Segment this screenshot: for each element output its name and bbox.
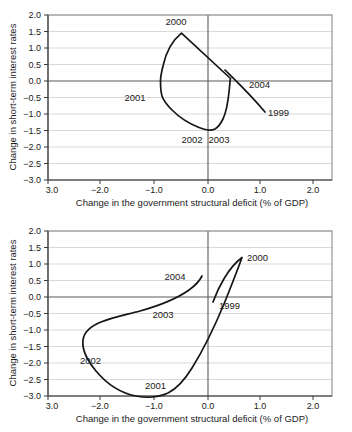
top-gridlines bbox=[48, 15, 332, 180]
point-label-2004: 2004 bbox=[249, 79, 270, 90]
top-y-axis-title: Change in short-term interest rates bbox=[7, 23, 18, 170]
x-tick-label: −1.0 bbox=[145, 185, 163, 195]
y-tick-label: −0.5 bbox=[23, 93, 41, 103]
x-tick-label: 1.0 bbox=[254, 401, 267, 411]
x-tick-label: 2.0 bbox=[307, 185, 320, 195]
point-label-2001: 2001 bbox=[145, 380, 166, 391]
point-label-2004: 2004 bbox=[164, 271, 185, 282]
y-tick-label: −2.0 bbox=[23, 142, 41, 152]
top-x-ticks: 3.0 −2.0 −1.0 0.0 1.0 2.0 bbox=[46, 180, 320, 195]
x-tick-label: 1.0 bbox=[254, 185, 267, 195]
point-label-2002: 2002 bbox=[80, 355, 101, 366]
x-tick-label: 3.0 bbox=[46, 185, 59, 195]
x-tick-label: 3.0 bbox=[46, 401, 59, 411]
point-label-2003: 2003 bbox=[152, 309, 173, 320]
y-tick-label: −0.5 bbox=[23, 309, 41, 319]
point-label-2000: 2000 bbox=[247, 252, 268, 263]
y-tick-label: 1.5 bbox=[28, 27, 41, 37]
bottom-chart-svg: 2.0 1.5 1.0 0.5 0.0 −0.5 −1.0 −1.5 −2.0 … bbox=[0, 216, 352, 432]
y-tick-label: −3.0 bbox=[23, 175, 41, 185]
x-tick-label: −2.0 bbox=[91, 185, 109, 195]
point-label-1999: 1999 bbox=[268, 107, 289, 118]
point-label-2003: 2003 bbox=[208, 134, 229, 145]
y-tick-label: 0.5 bbox=[28, 276, 41, 286]
y-tick-label: 0.0 bbox=[28, 292, 41, 302]
y-tick-label: −1.0 bbox=[23, 325, 41, 335]
y-tick-label: 1.0 bbox=[28, 43, 41, 53]
point-label-1999: 1999 bbox=[219, 300, 240, 311]
y-tick-label: −1.5 bbox=[23, 342, 41, 352]
bottom-y-ticks: 2.0 1.5 1.0 0.5 0.0 −0.5 −1.0 −1.5 −2.0 … bbox=[23, 226, 48, 401]
y-tick-label: −1.0 bbox=[23, 109, 41, 119]
y-tick-label: 0.0 bbox=[28, 76, 41, 86]
top-x-axis-title: Change in the government structural defi… bbox=[76, 197, 308, 208]
x-tick-label: 0.0 bbox=[202, 185, 215, 195]
y-tick-label: −3.0 bbox=[23, 391, 41, 401]
bottom-series-trajectory bbox=[83, 258, 242, 398]
y-tick-label: 2.0 bbox=[28, 10, 41, 20]
top-chart-svg: 2.0 1.5 1.0 0.5 0.0 −0.5 −1.0 −1.5 −2.0 … bbox=[0, 0, 352, 216]
y-tick-label: 2.0 bbox=[28, 226, 41, 236]
chart-panel-bottom: 2.0 1.5 1.0 0.5 0.0 −0.5 −1.0 −1.5 −2.0 … bbox=[0, 216, 352, 432]
point-label-2000: 2000 bbox=[165, 16, 186, 27]
y-tick-label: −2.0 bbox=[23, 358, 41, 368]
point-label-2002: 2002 bbox=[181, 134, 202, 145]
y-tick-label: −2.5 bbox=[23, 159, 41, 169]
top-y-ticks: 2.0 1.5 1.0 0.5 0.0 −0.5 −1.0 −1.5 −2.0 … bbox=[23, 10, 48, 185]
x-tick-label: −1.0 bbox=[145, 401, 163, 411]
y-tick-label: 1.0 bbox=[28, 259, 41, 269]
point-label-2001: 2001 bbox=[124, 92, 145, 103]
x-tick-label: 0.0 bbox=[202, 401, 215, 411]
top-series-tail-1999 bbox=[225, 70, 265, 112]
x-tick-label: 2.0 bbox=[307, 401, 320, 411]
bottom-y-axis-title: Change in short-term interest rates bbox=[7, 239, 18, 386]
y-tick-label: −2.5 bbox=[23, 375, 41, 385]
bottom-x-ticks: 3.0 −2.0 −1.0 0.0 1.0 2.0 bbox=[46, 396, 320, 411]
bottom-point-labels: 2000 1999 2004 2003 2002 2001 bbox=[80, 252, 268, 391]
chart-panel-top: 2.0 1.5 1.0 0.5 0.0 −0.5 −1.0 −1.5 −2.0 … bbox=[0, 0, 352, 216]
bottom-x-axis-title: Change in the government structural defi… bbox=[76, 413, 308, 424]
y-tick-label: −1.5 bbox=[23, 126, 41, 136]
y-tick-label: 1.5 bbox=[28, 243, 41, 253]
y-tick-label: 0.5 bbox=[28, 60, 41, 70]
x-tick-label: −2.0 bbox=[91, 401, 109, 411]
